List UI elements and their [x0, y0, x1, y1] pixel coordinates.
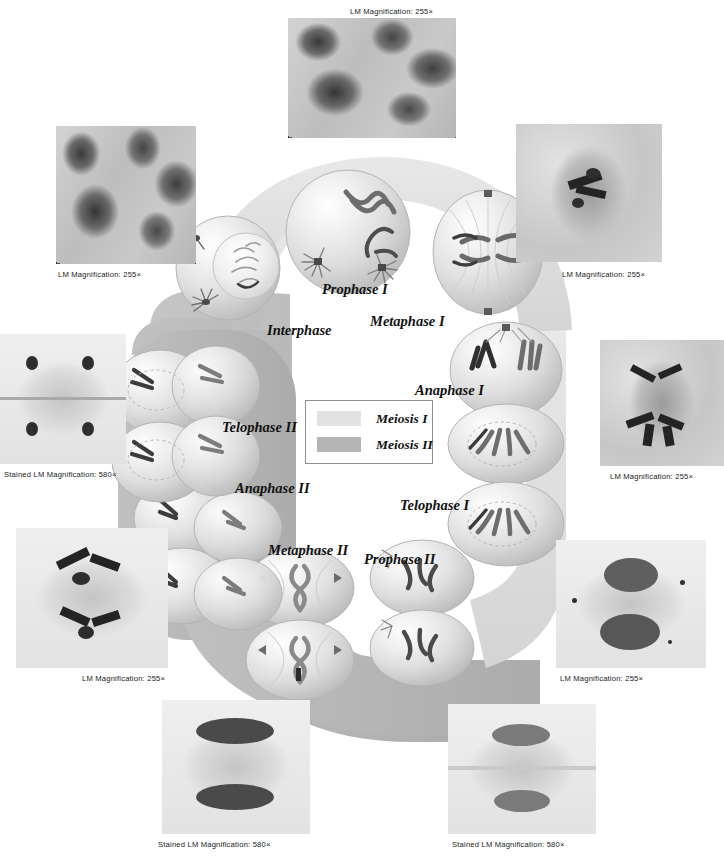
micrograph-left-lower-image: [16, 528, 168, 668]
label-telophase-2: Telophase II: [222, 419, 297, 436]
label-interphase: Interphase: [267, 322, 331, 339]
micrograph-left-lower-caption: LM Magnification: 255×: [82, 674, 165, 683]
micrograph-bottom-right: [448, 704, 596, 834]
micrograph-right-lower: [556, 540, 706, 668]
label-anaphase-2: Anaphase II: [235, 480, 310, 497]
legend-swatch-meiosis-i: [317, 411, 361, 426]
micrograph-upper-right-caption: LM Magnification: 255×: [562, 270, 645, 279]
micrograph-upper-left: [56, 126, 196, 264]
micrograph-right-mid: [600, 340, 724, 466]
micrograph-top-caption: LM Magnification: 255×: [350, 7, 433, 16]
meiosis-diagram: LM Magnification: 255× LM Magnification:…: [0, 0, 724, 866]
legend: Meiosis I Meiosis II: [305, 400, 433, 464]
cell-prophase-1: [286, 170, 410, 294]
micrograph-upper-right: [516, 124, 662, 262]
micrograph-bottom-right-caption: Stained LM Magnification: 580×: [452, 840, 565, 849]
label-anaphase-1: Anaphase I: [415, 382, 484, 399]
legend-swatch-meiosis-ii: [317, 437, 361, 452]
micrograph-top-image: [288, 18, 456, 138]
micrograph-upper-left-image: [56, 126, 196, 264]
legend-label-meiosis-ii: Meiosis II: [376, 437, 433, 453]
micrograph-right-mid-caption: LM Magnification: 255×: [610, 472, 693, 481]
micrograph-top: [288, 18, 456, 138]
legend-label-meiosis-i: Meiosis I: [376, 411, 427, 427]
label-metaphase-1: Metaphase I: [370, 313, 445, 330]
legend-item-meiosis-i: Meiosis I: [317, 411, 427, 426]
micrograph-upper-left-caption: LM Magnification: 255×: [58, 270, 141, 279]
micrograph-right-lower-caption: LM Magnification: 255×: [560, 674, 643, 683]
label-prophase-1: Prophase I: [322, 281, 388, 298]
label-metaphase-2: Metaphase II: [268, 542, 348, 559]
label-prophase-2: Prophase II: [364, 551, 435, 568]
micrograph-right-mid-image: [600, 340, 724, 466]
legend-item-meiosis-ii: Meiosis II: [317, 437, 433, 452]
micrograph-bottom-left-caption: Stained LM Magnification: 580×: [158, 840, 271, 849]
micrograph-bottom-left: [162, 700, 310, 834]
label-telophase-1: Telophase I: [400, 497, 469, 514]
micrograph-left-upper-caption: Stained LM Magnification: 580×: [4, 470, 117, 479]
micrograph-left-upper: [0, 334, 126, 464]
micrograph-left-lower: [16, 528, 168, 668]
